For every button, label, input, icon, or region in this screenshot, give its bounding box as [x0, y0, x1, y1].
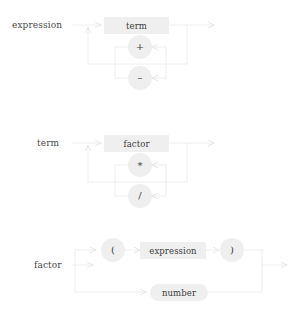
node-expression-label: expression [140, 246, 206, 256]
node-lparen-label: ( [101, 244, 125, 255]
node-term-label: term [104, 21, 169, 31]
node-minus-label: – [128, 72, 152, 83]
node-rparen-label: ) [220, 244, 244, 255]
node-slash-label: / [128, 190, 152, 201]
diagram-label-expression: expression [12, 20, 62, 30]
node-star-label: * [128, 160, 152, 171]
node-number-label: number [150, 288, 208, 298]
diagram-label-factor: factor [34, 260, 62, 270]
node-factor-label: factor [104, 139, 169, 149]
node-plus-label: + [128, 41, 152, 52]
diagram-label-term: term [37, 138, 59, 148]
